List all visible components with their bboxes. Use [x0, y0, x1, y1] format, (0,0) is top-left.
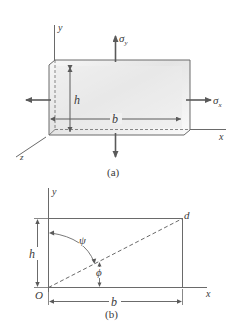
width-label-b: b	[111, 295, 117, 309]
corner-label-d: d	[184, 209, 190, 221]
height-label-a: h	[74, 93, 80, 107]
psi-label: ψ	[79, 234, 86, 246]
caption-b: (b)	[105, 308, 118, 321]
x-axis-label-b: x	[205, 288, 211, 299]
x-axis-label-a: x	[218, 131, 224, 142]
figure-a: y z x σy σx h	[16, 22, 226, 179]
figure-b: y x d O h b ψ	[29, 186, 211, 321]
y-axis-label-b: y	[51, 186, 57, 197]
phi-label: ϕ	[96, 266, 102, 278]
y-axis-label-a: y	[57, 22, 63, 33]
height-label-b: h	[29, 247, 35, 261]
z-axis-label-a: z	[19, 152, 24, 162]
stress-diagram: y z x σy σx h	[0, 0, 239, 321]
stress-y-label: σy	[119, 32, 128, 47]
origin-label: O	[35, 289, 43, 301]
stress-x-label: σx	[213, 94, 222, 109]
caption-a: (a)	[107, 166, 120, 179]
diagonal-od	[49, 219, 183, 288]
width-label-a: b	[112, 112, 118, 126]
